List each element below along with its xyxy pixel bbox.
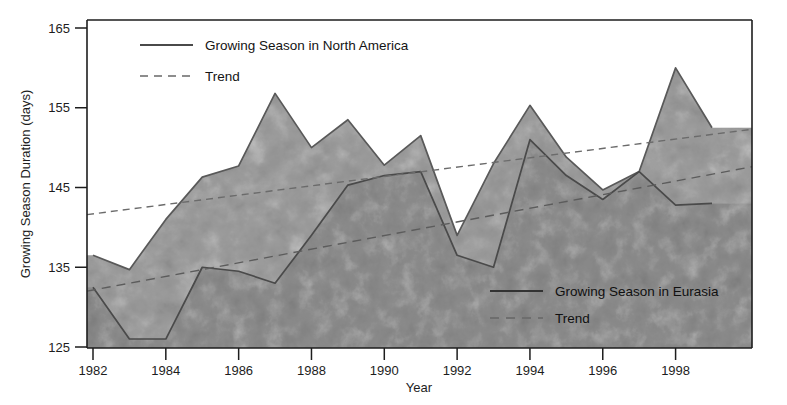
growing-season-area-chart: 165155145135125 198219841986198819901992… xyxy=(0,0,787,405)
legend-label-na: Growing Season in North America xyxy=(205,38,409,53)
y-tick-label: 145 xyxy=(48,180,70,195)
x-tick-label: 1992 xyxy=(443,363,472,378)
x-tick-label: 1986 xyxy=(224,363,253,378)
x-tick-label: 1988 xyxy=(297,363,326,378)
x-tick-label: 1996 xyxy=(588,363,617,378)
y-axis-title: Growing Season Duration (days) xyxy=(18,90,33,279)
y-tick-label: 125 xyxy=(48,340,70,355)
y-tick-label: 135 xyxy=(48,260,70,275)
x-tick-label: 1984 xyxy=(151,363,180,378)
x-tick-label: 1982 xyxy=(79,363,108,378)
x-tick-label: 1998 xyxy=(661,363,690,378)
x-tick-label: 1994 xyxy=(515,363,544,378)
chart-container: 165155145135125 198219841986198819901992… xyxy=(0,0,787,405)
legend-label-eu: Growing Season in Eurasia xyxy=(555,284,719,299)
legend-label-trend-na: Trend xyxy=(205,69,240,84)
legend-label-trend-eu: Trend xyxy=(555,311,590,326)
y-tick-label: 165 xyxy=(48,21,70,36)
x-axis-title: Year xyxy=(406,380,433,395)
y-tick-label: 155 xyxy=(48,100,70,115)
x-tick-label: 1990 xyxy=(370,363,399,378)
